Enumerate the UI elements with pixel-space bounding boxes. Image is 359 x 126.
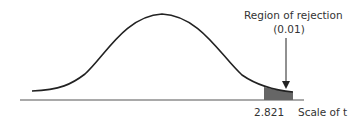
axis-label: Scale of t	[298, 106, 347, 118]
annotation-line1: Region of rejection	[244, 9, 334, 21]
arrow-head-icon	[282, 81, 290, 89]
rejection-region	[264, 87, 293, 100]
critical-value-label: 2.821	[254, 106, 284, 118]
annotation-line2: (0.01)	[244, 23, 334, 35]
